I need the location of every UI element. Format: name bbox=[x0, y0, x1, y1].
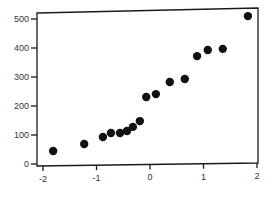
data-point bbox=[99, 133, 107, 141]
data-point bbox=[129, 123, 137, 131]
data-point bbox=[136, 117, 144, 125]
data-point bbox=[142, 93, 150, 101]
data-point bbox=[152, 90, 160, 98]
data-point bbox=[204, 46, 212, 54]
y-tick-label: 300 bbox=[14, 72, 29, 82]
y-tick-label: 0 bbox=[24, 159, 29, 169]
data-point bbox=[193, 52, 201, 60]
y-tick-label: 200 bbox=[14, 101, 29, 111]
x-tick-label: -2 bbox=[39, 174, 47, 184]
data-point bbox=[166, 78, 174, 86]
x-tick-label: 2 bbox=[254, 171, 259, 181]
plot-frame bbox=[37, 8, 258, 166]
y-axis: 0100200300400500 bbox=[14, 14, 37, 169]
data-points bbox=[49, 12, 252, 155]
data-point bbox=[181, 75, 189, 83]
data-point bbox=[219, 45, 227, 53]
y-tick-label: 500 bbox=[14, 14, 29, 24]
x-tick-label: -1 bbox=[92, 173, 100, 183]
scatter-chart: 0100200300400500 -2-1012 bbox=[0, 0, 275, 197]
y-tick-label: 100 bbox=[14, 130, 29, 140]
data-point bbox=[49, 147, 57, 155]
y-tick-label: 400 bbox=[14, 43, 29, 53]
x-tick-label: 1 bbox=[201, 172, 206, 182]
x-tick-label: 0 bbox=[147, 172, 152, 182]
plot-border bbox=[37, 8, 258, 166]
data-point bbox=[107, 129, 115, 137]
data-point bbox=[80, 140, 88, 148]
data-point bbox=[244, 12, 252, 20]
